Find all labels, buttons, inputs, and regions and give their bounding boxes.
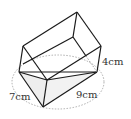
label-right-side: 9cm: [76, 90, 97, 100]
edge: [23, 12, 77, 46]
edge: [73, 37, 86, 56]
edge: [73, 12, 77, 37]
edge: [19, 46, 23, 72]
edge: [97, 46, 101, 72]
prism-diagram: 7cm 9cm 4cm: [0, 0, 131, 119]
label-height: 4cm: [102, 57, 123, 67]
hidden-edge: [86, 56, 97, 72]
label-left-side: 7cm: [9, 92, 30, 102]
edge: [77, 12, 101, 46]
